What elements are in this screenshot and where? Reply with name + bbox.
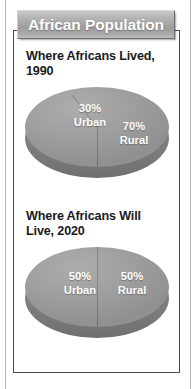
slice-name-urban-2020: Urban — [51, 283, 109, 297]
chart-title-2020: Where Africans Will Live, 2020 — [26, 209, 172, 239]
pie-chart-2020: 50% Urban 50% Rural — [14, 243, 181, 343]
slice-percent-rural-2020: 50% — [103, 269, 161, 283]
slice-percent-urban-1990: 30% — [61, 101, 119, 115]
header-banner: African Population — [17, 10, 175, 39]
chart-title-1990: Where Africans Lived, 1990 — [26, 49, 172, 79]
chart-panel-1990: Where Africans Lived, 1990 30% Urban 70%… — [14, 49, 181, 183]
slice-percent-urban-2020: 50% — [51, 269, 109, 283]
page-rule-right — [190, 0, 191, 389]
pie-disc-2020: 50% Urban 50% Rural — [25, 247, 169, 327]
slice-percent-rural-1990: 70% — [105, 119, 163, 133]
chart-panel-2020: Where Africans Will Live, 2020 50% Urban… — [14, 209, 181, 343]
infographic-page: Where Africans Lived, 1990 30% Urban 70%… — [0, 0, 196, 389]
header-banner-title: African Population — [28, 17, 164, 33]
slice-label-urban-2020: 50% Urban — [51, 269, 109, 297]
pie-disc-1990: 30% Urban 70% Rural — [25, 87, 169, 167]
slice-name-rural-1990: Rural — [105, 133, 163, 147]
page-rule-left — [5, 0, 6, 389]
slice-divider-down-1990 — [97, 127, 98, 167]
pie-chart-1990: 30% Urban 70% Rural — [14, 83, 181, 183]
slice-name-rural-2020: Rural — [103, 283, 161, 297]
slice-label-rural-1990: 70% Rural — [105, 119, 163, 147]
content-box: Where Africans Lived, 1990 30% Urban 70%… — [13, 30, 180, 373]
slice-label-rural-2020: 50% Rural — [103, 269, 161, 297]
